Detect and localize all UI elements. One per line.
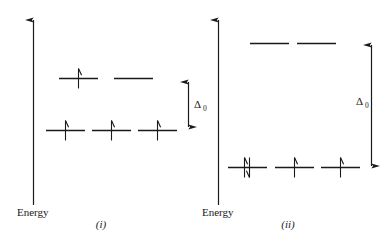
figure-canvas: Δ 0 Energy (i) bbox=[0, 0, 384, 236]
panel-i: Δ 0 Energy (i) bbox=[17, 20, 207, 231]
panel-caption-i: (i) bbox=[96, 218, 107, 231]
delta-subscript-i: 0 bbox=[203, 104, 207, 113]
energy-axis-label-i: Energy bbox=[17, 206, 49, 218]
lower-level-ii bbox=[228, 158, 360, 178]
delta-label-i: Δ bbox=[194, 98, 201, 110]
energy-axis-label-ii: Energy bbox=[202, 206, 234, 218]
lower-level-i bbox=[46, 121, 177, 141]
crystal-field-splitting-figure: Δ 0 Energy (i) bbox=[0, 0, 384, 236]
delta-label-ii: Δ bbox=[356, 95, 363, 107]
upper-level-i bbox=[59, 69, 153, 89]
splitting-indicator-i: Δ 0 bbox=[189, 82, 208, 127]
panel-ii: Δ 0 Energy (ii) bbox=[202, 20, 372, 231]
delta-subscript-ii: 0 bbox=[365, 101, 369, 110]
panel-caption-ii: (ii) bbox=[281, 218, 295, 231]
splitting-indicator-ii: Δ 0 bbox=[356, 45, 372, 166]
